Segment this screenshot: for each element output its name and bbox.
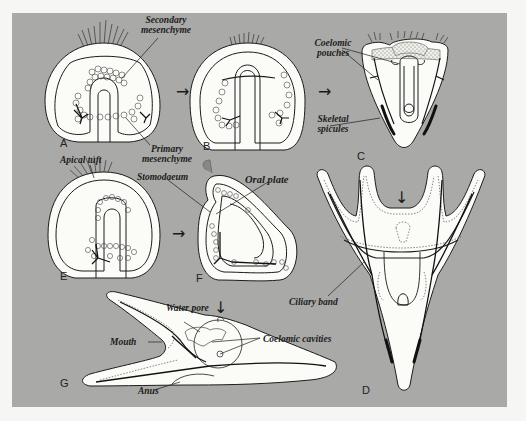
label-line: Skeletal: [300, 114, 366, 124]
label-line: mesenchyme: [120, 25, 212, 35]
panel-letter-d: D: [362, 384, 370, 396]
label-skeletal-spicules: Skeletal spicules: [300, 114, 366, 134]
label-ciliary-band: Ciliary band: [289, 297, 338, 307]
panel-letter-c: C: [357, 150, 365, 162]
panel-letter-g: G: [60, 377, 69, 389]
label-stomodaeum: Stomodaeum: [137, 172, 188, 182]
label-line: mesenchyme: [132, 154, 202, 164]
panel-letter-f: F: [196, 272, 203, 284]
label-line: Coelomic: [298, 38, 368, 48]
label-oral-plate: Oral plate: [245, 175, 288, 185]
arrow-right-icon: →: [172, 226, 185, 242]
stage-a-gastrula: [45, 20, 160, 142]
label-apical-tuft: Apical tuft: [60, 155, 101, 165]
label-line: Secondary: [120, 15, 212, 25]
arrow-down-icon: ↓: [214, 300, 227, 316]
label-primary-mesenchyme: Primary mesenchyme: [132, 144, 202, 164]
label-water-pore: Water pore: [166, 303, 209, 313]
arrow-right-icon: →: [176, 84, 189, 100]
stage-c-prism: [362, 31, 448, 148]
arrow-right-icon: →: [318, 84, 331, 100]
label-line: pouches: [298, 48, 368, 58]
label-coelomic-cavities: Coelomic cavities: [263, 334, 331, 344]
larval-development-drawing: [0, 0, 526, 421]
stage-b-gastrula: [190, 32, 305, 150]
label-line: spicules: [300, 124, 366, 134]
label-line: Primary: [132, 144, 202, 154]
label-anus: Anus: [138, 386, 159, 396]
panel-letter-a: A: [60, 137, 67, 149]
label-secondary-mesenchyme: Secondary mesenchyme: [120, 15, 212, 35]
arrow-down-icon: ↓: [395, 190, 408, 206]
label-coelomic-pouches: Coelomic pouches: [298, 38, 368, 58]
label-mouth: Mouth: [110, 337, 136, 347]
panel-letter-b: B: [203, 140, 210, 152]
panel-letter-e: E: [60, 270, 67, 282]
